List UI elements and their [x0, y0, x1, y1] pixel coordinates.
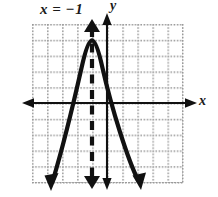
parabola-graph-figure	[0, 0, 218, 197]
x-axis-label: x	[199, 93, 206, 109]
equation-label: x = −1	[40, 1, 83, 18]
y-axis-label: y	[110, 0, 116, 14]
